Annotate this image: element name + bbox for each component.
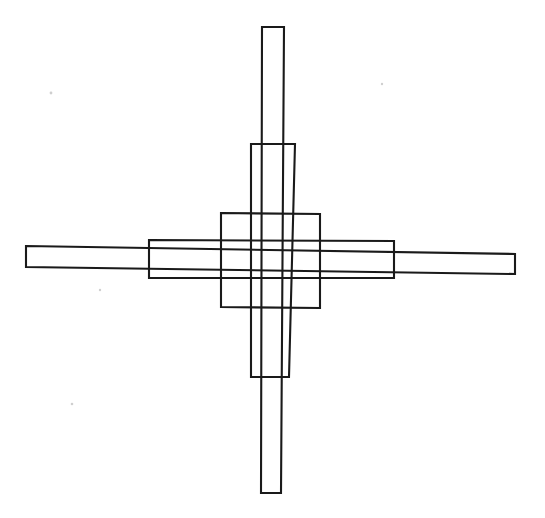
speck-upper-left [50,92,53,95]
figure-canvas [0,0,545,518]
speck-upper-right [381,83,383,85]
drawing-background [0,0,545,518]
speck-lower-left [71,403,74,406]
speck-mid-left [99,289,101,291]
line-drawing-svg [0,0,545,518]
